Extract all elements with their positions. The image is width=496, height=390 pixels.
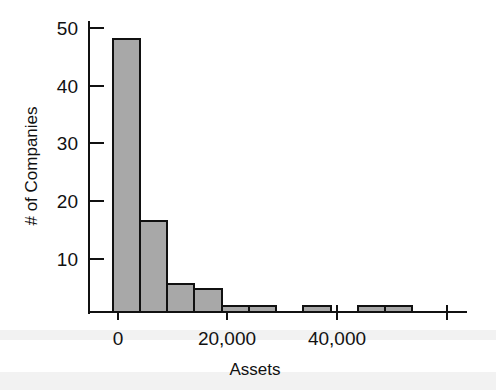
y-axis-title: # of Companies: [22, 106, 41, 225]
y-tick-label-20: 20: [57, 191, 78, 212]
bar-9: [358, 306, 385, 312]
x-tick-label-20000: 20,000: [198, 328, 256, 349]
bar-2: [167, 284, 194, 312]
x-axis-title: Assets: [229, 360, 280, 379]
y-tick-label-40: 40: [57, 76, 78, 97]
x-tick-label-40000: 40,000: [308, 328, 366, 349]
bar-7: [303, 306, 330, 312]
histogram-screenshot: 50 40 30 20 10 0 20,000 40,000 # of Comp…: [0, 0, 496, 390]
y-tick-label-30: 30: [57, 133, 78, 154]
bar-4: [222, 306, 249, 312]
bar-1: [140, 221, 167, 312]
bar-3: [194, 289, 221, 312]
bar-10: [385, 306, 412, 312]
bar-5: [249, 306, 276, 312]
y-tick-label-10: 10: [57, 249, 78, 270]
chart-plot-area: 50 40 30 20 10 0 20,000 40,000 # of Comp…: [0, 0, 496, 390]
bar-0: [113, 39, 140, 312]
x-tick-label-0: 0: [113, 328, 124, 349]
y-tick-label-50: 50: [57, 18, 78, 39]
bars-group: [113, 39, 413, 312]
histogram-chart: 50 40 30 20 10 0 20,000 40,000 # of Comp…: [0, 0, 496, 390]
